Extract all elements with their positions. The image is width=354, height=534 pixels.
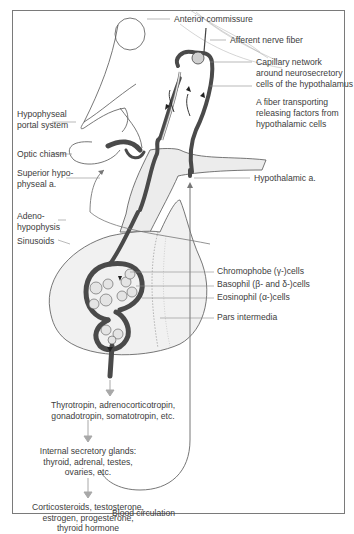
label-adenohypophysis-line2: hypophysis bbox=[17, 222, 60, 233]
label-sinusoids: Sinusoids bbox=[17, 236, 54, 247]
label-superior-hypophyseal-line2: physeal a. bbox=[17, 179, 56, 190]
label-blood-circulation: Blood circulation bbox=[112, 508, 175, 519]
label-hypophyseal-portal-line2: portal system bbox=[17, 120, 68, 131]
anterior-commissure-shape bbox=[115, 18, 145, 50]
label-superior-hypophyseal-line1: Superior hypo- bbox=[17, 168, 73, 179]
label-chromophobe-cells: Chromophobe (γ-)cells bbox=[217, 266, 304, 277]
label-capillary-network-line2: around neurosecretory bbox=[256, 68, 342, 79]
label-hypothalamic-artery: Hypothalamic a. bbox=[254, 173, 316, 184]
label-hypophyseal-portal-line1: Hypophyseal bbox=[17, 109, 67, 120]
label-pars-intermedia: Pars intermedia bbox=[217, 312, 277, 323]
capillary-network-node bbox=[192, 52, 204, 64]
label-optic-chiasm: Optic chiasm bbox=[17, 149, 67, 160]
flow-step2-line3: ovaries, etc. bbox=[18, 467, 158, 478]
label-capillary-network-line1: Capillary network bbox=[256, 57, 322, 68]
flow-step1-line2: gonadotropin, somatotropin, etc. bbox=[18, 411, 208, 422]
flow-step2-line1: Internal secretory glands: bbox=[18, 446, 158, 457]
label-capillary-network-line3: cells of the hypothalamus bbox=[256, 79, 353, 90]
label-anterior-commissure: Anterior commissure bbox=[174, 14, 253, 25]
label-fiber-transport-line2: releasing factors from bbox=[256, 108, 339, 119]
label-adenohypophysis-line1: Adeno- bbox=[17, 211, 45, 222]
flow-step2-line2: thyroid, adrenal, testes, bbox=[18, 457, 158, 468]
label-fiber-transport-line1: A fiber transporting bbox=[256, 97, 328, 108]
flow-step-pituitary-hormones: Thyrotropin, adrenocorticotropin, gonado… bbox=[18, 400, 208, 421]
label-eosinophil-cells: Eosinophil (α-)cells bbox=[217, 292, 290, 303]
label-afferent-nerve-fiber: Afferent nerve fiber bbox=[230, 35, 303, 46]
pituitary-stalk bbox=[120, 149, 266, 233]
flow-step-secretory-glands: Internal secretory glands: thyroid, adre… bbox=[18, 446, 158, 478]
label-basophil-cells: Basophil (β- and δ-)cells bbox=[217, 279, 310, 290]
flow-step3-line3: thyroid hormone bbox=[18, 523, 158, 534]
flow-step1-line1: Thyrotropin, adrenocorticotropin, bbox=[18, 400, 208, 411]
label-fiber-transport-line3: hypothalamic cells bbox=[256, 119, 326, 130]
